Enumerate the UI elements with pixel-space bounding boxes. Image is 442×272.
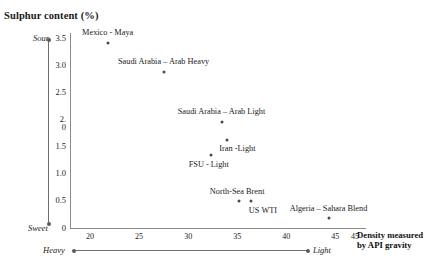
x-tick-label: 45: [351, 232, 359, 241]
x-axis-low-label: Heavy: [43, 245, 65, 255]
y-tick-label: 3.5: [44, 34, 66, 43]
data-point-marker: [106, 42, 109, 45]
scatter-chart: Sulphur content (%) Sour Sweet Heavy Lig…: [0, 0, 442, 272]
data-point-label: Iran -Light: [219, 144, 255, 153]
x-axis-title-line2: by API gravity: [357, 240, 442, 250]
y-tick-label: 0: [44, 224, 66, 233]
y-tick-label: 2.5: [44, 88, 66, 97]
x-tick-label: 20: [86, 232, 94, 241]
data-point-label: FSU - Light: [189, 160, 229, 169]
x-tick-label: 40: [282, 232, 290, 241]
y-tick-label: 0.5: [44, 196, 66, 205]
x-tick-label: 45: [331, 232, 339, 241]
data-point-marker: [209, 154, 212, 157]
data-point-label: Saudi Arabia – Arab Light: [178, 107, 266, 116]
y-tick-label: 2. 0: [44, 115, 66, 132]
data-point-label: US WTI: [249, 206, 277, 215]
y-tick-label: 3.0: [44, 61, 66, 70]
y-tick-label: 1.5: [44, 142, 66, 151]
x-axis-title-line1: Density measured: [357, 230, 442, 240]
y-axis-line: [70, 33, 71, 229]
data-point-label: Mexico - Maya: [82, 28, 133, 37]
y-tick-label: 1.0: [44, 169, 66, 178]
x-tick-label: 35: [233, 232, 241, 241]
heavy-light-arrow: [75, 250, 307, 251]
x-axis-high-label: Light: [313, 245, 331, 255]
data-point-marker: [226, 139, 229, 142]
x-axis-line: [70, 228, 366, 229]
chart-title: Sulphur content (%): [4, 10, 98, 21]
x-axis-title: Density measured by API gravity: [357, 230, 442, 250]
data-point-marker: [249, 199, 252, 202]
data-point-label: North-Sea Brent: [210, 187, 265, 196]
data-point-label: Saudi Arabia – Arab Heavy: [118, 57, 209, 66]
x-tick-label: 30: [184, 232, 192, 241]
x-tick-label: 25: [135, 232, 143, 241]
data-point-marker: [238, 199, 241, 202]
data-point-marker: [162, 71, 165, 74]
data-point-marker: [220, 121, 223, 124]
data-point-marker: [327, 217, 330, 220]
data-point-label: Algeria – Sahara Blend: [290, 204, 368, 213]
